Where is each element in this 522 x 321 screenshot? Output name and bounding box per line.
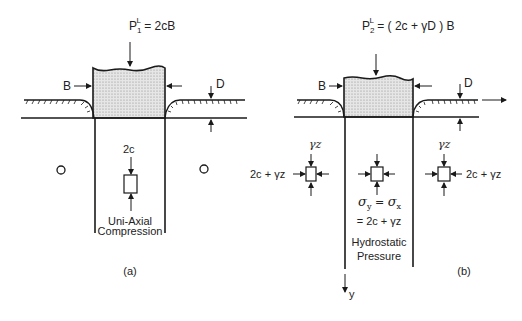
point-marker-right-a — [200, 165, 208, 173]
stress-element-center-b — [358, 154, 395, 195]
depth-label-a: D — [216, 77, 225, 91]
ground-surface-right-a — [165, 100, 245, 118]
width-label-a: B — [63, 79, 71, 93]
caption-a: (a) — [123, 265, 136, 277]
soil-element-a — [124, 175, 137, 193]
caption-b: (b) — [457, 265, 470, 277]
panel-a: P1L = 2cB B D 2c Uni-Axia — [21, 16, 247, 277]
y-axis-label-b: y — [349, 288, 355, 300]
depth-label-b: D — [464, 76, 473, 90]
stress-equality-eq: σy = σx — [358, 194, 402, 211]
hatching-right-a — [168, 100, 237, 112]
right-element-side-label: 2c + γz — [466, 168, 501, 180]
left-element-top-label: γz — [309, 138, 322, 151]
right-element-top-label: γz — [438, 138, 451, 151]
stress-label-a: 2c — [123, 143, 135, 155]
zone-label-b-line1: Hydrostatic — [351, 236, 407, 248]
stress-element-right-b: γz 2c + γz — [425, 138, 501, 196]
panel-b: P2L = ( 2c + γD ) B B D y γz 2c — [250, 16, 506, 300]
hydrostatic-value-eq: = 2c + γz — [357, 215, 402, 227]
left-element-side-label: 2c + γz — [250, 168, 285, 180]
point-marker-left-a — [57, 166, 65, 174]
zone-label-b-line2: Pressure — [357, 250, 401, 262]
hatching-left-a — [26, 100, 90, 112]
hatching-left-b — [298, 100, 341, 112]
load-label-b: P2L = ( 2c + γD ) B — [362, 16, 455, 35]
footing-b — [344, 76, 413, 117]
zone-label-a-line2: Compression — [98, 225, 163, 237]
load-label-a: P1L = 2cB — [129, 16, 175, 35]
ground-surface-left-b — [297, 100, 344, 117]
stress-element-left-b: γz 2c + γz — [250, 138, 329, 196]
bearing-capacity-diagram: P1L = 2cB B D 2c Uni-Axia — [0, 0, 522, 321]
hatching-right-b — [416, 100, 475, 112]
footing-a — [93, 66, 165, 118]
width-label-b: B — [318, 79, 326, 93]
